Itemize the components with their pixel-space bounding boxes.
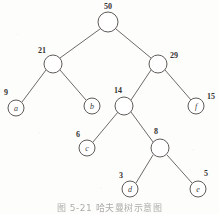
edge-21-a — [22, 70, 46, 102]
node-50[interactable]: 50 — [98, 2, 118, 33]
node-d-weight: 3 — [119, 171, 123, 180]
figure-caption: 图 5-21 哈夫曼树示意图 — [0, 201, 219, 214]
node-14-circle[interactable] — [115, 97, 133, 115]
node-29-circle[interactable] — [149, 55, 167, 73]
edge-21-b — [60, 70, 86, 100]
node-b[interactable]: b — [84, 98, 100, 114]
node-29-weight: 29 — [170, 51, 178, 60]
node-50-weight: 50 — [104, 2, 112, 11]
node-c-weight: 6 — [76, 130, 80, 139]
node-29[interactable]: 29 — [149, 51, 178, 74]
edge-14-8 — [131, 112, 153, 142]
node-8-weight: 8 — [154, 127, 158, 136]
node-c-label: c — [85, 144, 89, 153]
edge-14-c — [93, 112, 118, 142]
node-f[interactable]: f 15 — [188, 92, 215, 115]
edge-50-29 — [116, 29, 151, 58]
edge-8-e — [167, 155, 192, 183]
node-a-weight: 9 — [4, 88, 8, 97]
edge-29-f — [165, 70, 191, 100]
node-f-weight: 15 — [207, 92, 215, 101]
node-8-circle[interactable] — [151, 139, 169, 157]
node-21[interactable]: 21 — [38, 46, 62, 74]
node-e-label: e — [196, 185, 200, 194]
tree-nodes: 50 21 29 a 9 b — [4, 2, 215, 198]
edge-50-21 — [60, 29, 100, 58]
node-e-weight: 5 — [204, 169, 208, 178]
huffman-tree-diagram: 50 21 29 a 9 b — [0, 0, 219, 214]
node-b-label: b — [90, 102, 94, 111]
tree-edges — [22, 29, 192, 183]
node-21-circle[interactable] — [44, 55, 62, 73]
figure-canvas: 50 21 29 a 9 b — [0, 0, 219, 214]
node-a[interactable]: a 9 — [4, 88, 24, 117]
edge-8-d — [136, 155, 153, 183]
node-e[interactable]: e 5 — [190, 169, 208, 198]
edge-29-14 — [131, 70, 151, 100]
node-14-weight: 14 — [114, 86, 122, 95]
node-21-weight: 21 — [38, 46, 46, 55]
node-50-circle[interactable] — [98, 12, 118, 32]
node-c[interactable]: c 6 — [76, 130, 95, 157]
node-a-label: a — [14, 104, 18, 113]
node-d[interactable]: d 3 — [119, 171, 138, 198]
node-14[interactable]: 14 — [114, 86, 133, 116]
node-8[interactable]: 8 — [151, 127, 169, 158]
